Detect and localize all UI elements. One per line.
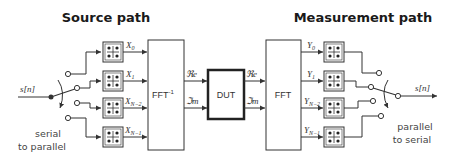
- to-parallel-label: to parallel: [18, 141, 66, 152]
- serial-label: serial: [35, 128, 61, 139]
- dut-label: DUT: [217, 90, 236, 100]
- symbol-yn1: YN−1: [304, 125, 320, 136]
- symbol-y1: Y1: [307, 69, 315, 80]
- symbol-y0: Y0: [307, 40, 315, 51]
- symbol-xn2: XN−2: [124, 96, 142, 107]
- serial-to-parallel-switch: s[n] serial to parallel: [18, 52, 101, 152]
- constellation-mapper-icon: [103, 98, 123, 118]
- symbol-yn2: YN−2: [304, 96, 320, 107]
- constellation-demapper-icon: [324, 42, 344, 62]
- symbol-x1: X1: [125, 69, 135, 80]
- symbol-xn1: XN−1: [124, 125, 142, 136]
- to-serial-label: to serial: [393, 134, 431, 145]
- constellation-demapper-icon: [324, 98, 344, 118]
- constellation-mapper-icon: [103, 127, 123, 147]
- dut-imag-label: ℑm: [246, 96, 259, 106]
- output-signal-label: s[n]: [415, 83, 431, 93]
- fft-label: FFT: [275, 90, 292, 100]
- rotation-arrow-icon: [384, 80, 388, 108]
- switch-pivot: [395, 93, 400, 98]
- input-signal-label: s[n]: [20, 84, 36, 94]
- constellation-demapper-icon: [324, 71, 344, 91]
- parallel-to-serial-switch: s[n] parallel to serial: [344, 52, 437, 145]
- constellation-mapper-icon: [103, 42, 123, 62]
- dut-real-label: ℜe: [246, 69, 257, 79]
- source-path-title: Source path: [62, 10, 151, 25]
- symbol-x0: X0: [125, 40, 135, 51]
- constellation-mapper-icon: [103, 71, 123, 91]
- ofdm-diagram: Source path Measurement path s[n] serial…: [0, 0, 455, 161]
- imag-part-label: ℑm: [186, 96, 199, 106]
- parallel-label: parallel: [397, 121, 432, 132]
- real-part-label: ℜe: [186, 69, 197, 79]
- constellation-demapper-icon: [324, 127, 344, 147]
- measurement-path-title: Measurement path: [294, 10, 433, 25]
